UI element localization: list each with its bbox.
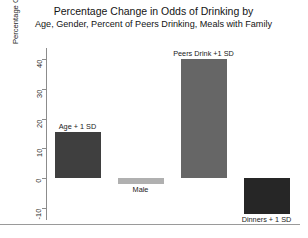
y-tick: 0 <box>42 178 46 179</box>
y-tick: 40 <box>42 59 46 60</box>
y-axis-spine <box>46 48 47 220</box>
y-tick-label: -10 <box>35 209 42 220</box>
y-axis-title: Percentage Change in Odds <box>12 0 20 44</box>
y-tick: 20 <box>42 119 46 120</box>
y-tick-label: 30 <box>35 89 42 97</box>
chart-subtitle: Age, Gender, Percent of Peers Drinking, … <box>0 19 307 29</box>
bar <box>244 178 290 214</box>
bar-label: Dinners + 1 SD <box>212 216 308 223</box>
plot-area: 403020100-10 Age + 1 SDMalePeers Drink +… <box>46 44 298 224</box>
bar <box>55 132 101 178</box>
bar-label: Peers Drink +1 SD <box>149 50 259 57</box>
chart-title: Percentage Change in Odds of Drinking by <box>0 6 307 18</box>
bar-label: Age + 1 SD <box>23 123 133 130</box>
y-tick: 30 <box>42 89 46 90</box>
y-tick: 10 <box>42 148 46 149</box>
chart-title-block: Percentage Change in Odds of Drinking by… <box>0 6 307 29</box>
bar <box>181 59 227 178</box>
y-tick-label: 10 <box>35 149 42 157</box>
chart-figure: Percentage Change in Odds of Drinking by… <box>0 0 307 238</box>
y-tick-label: 40 <box>35 60 42 68</box>
bar <box>118 178 164 184</box>
y-tick: -10 <box>42 208 46 209</box>
figure-bottom-rule <box>0 224 300 225</box>
bar-label: Male <box>86 186 196 193</box>
y-tick-label: 0 <box>35 179 42 183</box>
